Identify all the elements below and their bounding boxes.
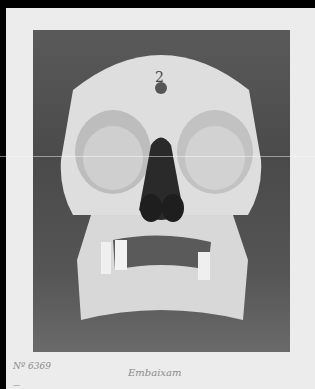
scan-line-artifact bbox=[0, 156, 315, 157]
skull-photograph: 2 bbox=[33, 30, 290, 352]
handwritten-name-label: Embaixam bbox=[128, 367, 181, 378]
skull-illustration: 2 bbox=[33, 30, 290, 352]
secondary-note-label: — bbox=[13, 381, 20, 389]
svg-text:2: 2 bbox=[155, 69, 164, 85]
catalog-number-label: Nº 6369 bbox=[13, 361, 51, 371]
